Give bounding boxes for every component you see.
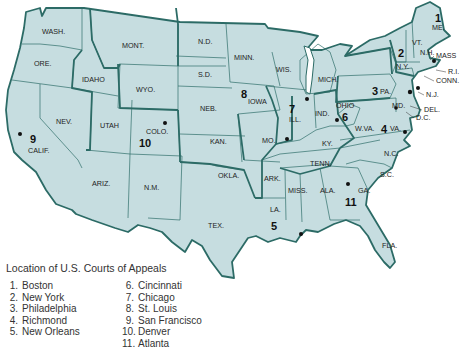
- legend-item: 7.Chicago: [122, 292, 202, 304]
- city-dot-new-york: [416, 86, 420, 90]
- circuit-number-3: 3: [372, 85, 378, 97]
- legend-city: Boston: [22, 280, 53, 291]
- circuit-number-5: 5: [271, 220, 277, 232]
- legend-city: Atlanta: [138, 338, 169, 347]
- state-label-ind: IND.: [315, 109, 329, 118]
- city-dot-richmond: [403, 130, 407, 134]
- legend-columns: 1.Boston 2.New York 3.Philadelphia 4.Ric…: [6, 280, 236, 347]
- circuit-number-9: 9: [30, 133, 36, 145]
- legend-column-2: 6.Cincinnati 7.Chicago 8.St. Louis 9.San…: [122, 280, 202, 347]
- state-label-mo: MO.: [262, 136, 276, 145]
- state-label-sd: S.D.: [198, 70, 212, 79]
- state-label-utah: UTAH: [100, 121, 119, 130]
- circuit-number-8: 8: [241, 88, 247, 100]
- legend-title: Location of U.S. Courts of Appeals: [6, 262, 236, 274]
- state-label-ark: ARK.: [264, 174, 281, 183]
- legend-item: 9.San Francisco: [122, 315, 202, 327]
- state-label-minn: MINN.: [234, 53, 254, 62]
- state-label-sc: S.C.: [380, 170, 394, 179]
- state-label-neb: NEB.: [200, 104, 217, 113]
- state-label-pa: PA.: [380, 87, 391, 96]
- legend-city: Philadelphia: [22, 303, 77, 314]
- circuit-number-7: 7: [289, 103, 295, 115]
- state-label-vt: VT.: [412, 38, 422, 47]
- legend-city: Cincinnati: [138, 280, 182, 291]
- state-label-ny: N.Y.: [396, 62, 409, 71]
- state-label-ga: GA.: [358, 186, 370, 195]
- legend-city: Richmond: [22, 315, 67, 326]
- legend-city: St. Louis: [138, 303, 177, 314]
- state-label-ill: ILL.: [289, 115, 301, 124]
- state-label-tex: TEX.: [208, 221, 224, 230]
- state-label-conn: CONN.: [436, 76, 459, 85]
- state-label-ore: ORE.: [34, 59, 52, 68]
- state-label-mich: MICH.: [318, 75, 338, 84]
- state-label-ariz: ARIZ.: [92, 179, 110, 188]
- state-label-calif: CALIF.: [28, 146, 50, 155]
- circuit-number-6: 6: [342, 111, 348, 123]
- legend-item: 6.Cincinnati: [122, 280, 202, 292]
- us-outline: [6, 2, 450, 278]
- state-label-la: LA.: [270, 205, 281, 214]
- state-label-ky: KY.: [322, 139, 333, 148]
- state-label-va: VA.: [390, 124, 401, 133]
- city-dot-atlanta: [346, 182, 350, 186]
- state-label-miss: MISS.: [288, 186, 308, 195]
- circuit-number-1: 1: [435, 12, 441, 24]
- city-dot-chicago: [305, 97, 309, 101]
- legend-item: 8.St. Louis: [122, 303, 202, 315]
- legend-item: 10.Denver: [122, 326, 202, 338]
- state-label-nd: N.D.: [198, 37, 212, 46]
- legend: Location of U.S. Courts of Appeals 1.Bos…: [6, 262, 236, 347]
- state-label-md: MD.: [392, 101, 405, 110]
- state-label-iowa: IOWA: [248, 97, 267, 106]
- state-label-fla: FLA.: [382, 241, 397, 250]
- state-label-idaho: IDAHO: [82, 75, 105, 84]
- state-label-tenn: TENN.: [310, 159, 332, 168]
- legend-city: Chicago: [138, 292, 175, 303]
- state-label-colo: COLO.: [146, 127, 168, 136]
- circuit-number-10: 10: [139, 137, 151, 149]
- legend-item: 3.Philadelphia: [6, 303, 122, 315]
- legend-city: New Orleans: [22, 326, 80, 337]
- legend-item: 11.Atlanta: [122, 338, 202, 347]
- state-label-ohio: OHIO: [336, 101, 355, 110]
- legend-city: Denver: [138, 326, 170, 337]
- state-label-ala: ALA.: [320, 186, 336, 195]
- legend-item: 2.New York: [6, 292, 122, 304]
- state-label-wva: W.VA.: [355, 124, 374, 133]
- legend-city: San Francisco: [138, 315, 202, 326]
- state-label-mass: MASS: [436, 51, 457, 60]
- state-label-me: ME.: [432, 23, 445, 32]
- legend-item: 1.Boston: [6, 280, 122, 292]
- state-label-nh: N.H.: [420, 48, 434, 57]
- circuit-number-11: 11: [345, 196, 357, 208]
- state-label-ri: R.I.: [448, 67, 459, 76]
- state-label-wyo: WYO.: [136, 85, 155, 94]
- city-dot-st-louis: [285, 137, 289, 141]
- city-dot-baltimore-area: [394, 106, 398, 110]
- state-label-nj: N.J.: [426, 90, 439, 99]
- city-dot-cincinnati: [335, 118, 339, 122]
- state-label-dc: D.C.: [416, 113, 430, 122]
- state-label-kan: KAN.: [210, 137, 227, 146]
- state-label-mont: MONT.: [122, 41, 144, 50]
- state-label-nc: N.C.: [384, 149, 398, 158]
- city-dot-philadelphia: [408, 90, 412, 94]
- city-dot-new-orleans: [299, 232, 303, 236]
- legend-city: New York: [22, 292, 64, 303]
- circuit-number-4: 4: [381, 123, 388, 135]
- city-dot-san-francisco: [18, 132, 22, 136]
- city-dot-boston: [432, 59, 436, 63]
- legend-item: 4.Richmond: [6, 315, 122, 327]
- state-label-nm: N.M.: [144, 183, 159, 192]
- state-label-wash: WASH.: [42, 27, 65, 36]
- legend-column-1: 1.Boston 2.New York 3.Philadelphia 4.Ric…: [6, 280, 122, 347]
- circuit-number-2: 2: [398, 47, 404, 59]
- state-label-wis: WIS.: [276, 65, 292, 74]
- city-dot-denver: [163, 121, 167, 125]
- state-label-nev: NEV.: [56, 117, 72, 126]
- state-label-okla: OKLA.: [218, 171, 239, 180]
- legend-item: 5.New Orleans: [6, 326, 122, 338]
